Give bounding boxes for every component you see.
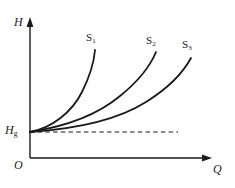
- plot-area: [0, 0, 235, 188]
- curve-label-s2: S2: [146, 35, 156, 48]
- curve-label-s3-subscript: 3: [188, 44, 192, 52]
- x-axis-arrow-icon: [202, 155, 212, 162]
- static-head-tick-base: H: [5, 123, 14, 137]
- curve-s3: [30, 58, 191, 132]
- origin-label: O: [14, 159, 23, 171]
- curve-label-s3: S3: [182, 39, 192, 52]
- static-head-tick-subscript: g: [14, 129, 18, 138]
- system-head-curve-figure: H Q O Hg S1 S2 S3: [0, 0, 235, 188]
- x-axis-label: Q: [213, 163, 222, 175]
- static-head-tick-label: Hg: [5, 124, 17, 138]
- y-axis-label: H: [14, 16, 23, 28]
- curve-label-s2-subscript: 2: [152, 40, 156, 48]
- curve-s1: [30, 50, 95, 132]
- y-axis-arrow-icon: [27, 17, 34, 27]
- curve-label-s1: S1: [86, 32, 96, 45]
- curve-label-s1-subscript: 1: [92, 37, 96, 45]
